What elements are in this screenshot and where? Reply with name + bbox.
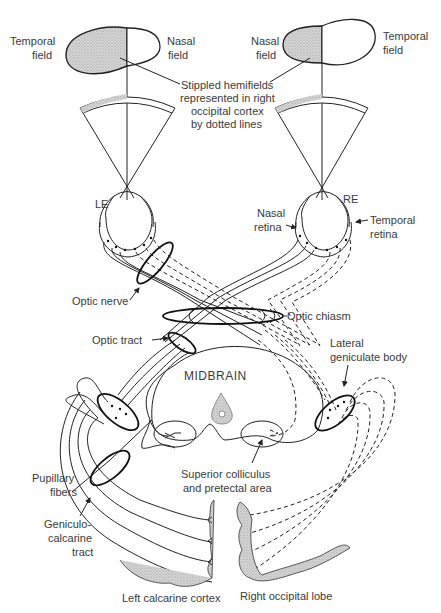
optic-tract-label: Optic tract bbox=[92, 334, 142, 346]
left-nasal-field-label-1: Nasal bbox=[167, 35, 195, 47]
left-retina-receptors bbox=[107, 237, 152, 251]
right-optic-tract-fibers bbox=[258, 330, 336, 436]
visual-pathway-diagram: MIDBRAIN bbox=[0, 0, 441, 613]
stippled-note-1: Stippled hemifields bbox=[181, 79, 274, 91]
midbrain-label: MIDBRAIN bbox=[184, 369, 247, 383]
left-nasal-field-shape bbox=[127, 28, 160, 66]
superior-colliculus-label-1: Superior colliculus bbox=[181, 468, 271, 480]
nasal-retina-label-2: retina bbox=[254, 221, 282, 233]
left-nasal-field-label-2: field bbox=[168, 49, 188, 61]
left-calcarine-cortex bbox=[120, 500, 214, 586]
right-lateral-geniculate-body bbox=[310, 389, 361, 437]
right-temporal-field-shape bbox=[322, 19, 375, 64]
labels: Temporal field Nasal field Nasal field T… bbox=[10, 30, 428, 604]
right-temporal-field-label-1: Temporal bbox=[383, 30, 428, 42]
left-eye-label: LE bbox=[95, 198, 108, 210]
right-occipital-lobe-label: Right occipital lobe bbox=[240, 590, 332, 602]
optic-nerve-label: Optic nerve bbox=[72, 295, 128, 307]
right-eye-label: RE bbox=[343, 193, 358, 205]
stippled-note-3: occipital cortex bbox=[191, 105, 264, 117]
superior-colliculus-label-2: and pretectal area bbox=[183, 482, 273, 494]
stippled-note-2: represented in right bbox=[180, 92, 275, 104]
stippled-note-4: by dotted lines bbox=[191, 118, 262, 130]
right-nasal-field-label-2: field bbox=[256, 49, 276, 61]
left-lgn-synapses bbox=[111, 405, 127, 419]
geniculocalcarine-label-2: calcarine bbox=[48, 532, 92, 544]
right-occipital-lobe bbox=[237, 502, 350, 581]
right-temporal-field-label-2: field bbox=[383, 44, 403, 56]
pupillary-fibers-label-2: fibers bbox=[50, 486, 77, 498]
right-nasal-field-label-1: Nasal bbox=[251, 35, 279, 47]
temporal-retina-label-2: retina bbox=[370, 228, 398, 240]
right-optic-nerve-fibers bbox=[160, 240, 351, 346]
left-temporal-field-label-1: Temporal bbox=[10, 35, 55, 47]
geniculocalcarine-label-1: Geniculo- bbox=[44, 518, 91, 530]
lgn-label-1: Lateral bbox=[330, 337, 364, 349]
left-temporal-field-label-2: field bbox=[32, 49, 52, 61]
right-nasal-field-shape bbox=[283, 26, 322, 63]
geniculocalcarine-marker bbox=[85, 445, 135, 491]
nasal-retina-label-1: Nasal bbox=[257, 207, 285, 219]
pupillary-fibers-label-1: Pupillary bbox=[32, 472, 75, 484]
left-calcarine-cortex-label: Left calcarine cortex bbox=[122, 592, 221, 604]
lgn-label-2: geniculate body bbox=[330, 351, 408, 363]
left-temporal-field-shape bbox=[66, 27, 127, 74]
temporal-retina-label-1: Temporal bbox=[370, 214, 415, 226]
cerebral-aqueduct bbox=[212, 393, 233, 424]
optic-chiasm-label: Optic chiasm bbox=[287, 310, 351, 322]
geniculocalcarine-label-3: tract bbox=[72, 546, 93, 558]
